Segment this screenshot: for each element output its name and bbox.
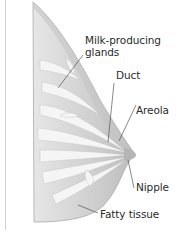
label-fatty-tissue: Fatty tissue bbox=[100, 208, 159, 220]
label-duct: Duct bbox=[116, 69, 140, 81]
label-milk-producing-glands: Milk-producing glands bbox=[85, 34, 161, 58]
label-glands-line1: Milk-producing bbox=[85, 34, 161, 46]
nipple-shape bbox=[124, 148, 136, 160]
label-nipple: Nipple bbox=[136, 181, 169, 193]
label-glands-line2: glands bbox=[85, 46, 161, 58]
label-areola: Areola bbox=[136, 104, 169, 116]
